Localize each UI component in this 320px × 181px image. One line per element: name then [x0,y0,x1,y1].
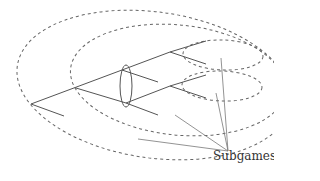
game-tree [31,41,206,116]
lower-node-lower [126,103,158,115]
ur-node-upper [170,41,206,52]
upper-node-lower [122,70,158,82]
node2-branch-lower [76,88,126,103]
lr-node-upper [170,75,206,86]
subgame-pointers [138,58,228,151]
subgames-label: Subgames [213,149,274,163]
pointer-middle [175,115,228,151]
pointer-upper-right [221,58,228,151]
root-branch-upper [31,70,122,104]
lr-node-lower [170,86,206,98]
ur-node-lower [170,52,206,64]
lower-node-upper [126,86,170,103]
